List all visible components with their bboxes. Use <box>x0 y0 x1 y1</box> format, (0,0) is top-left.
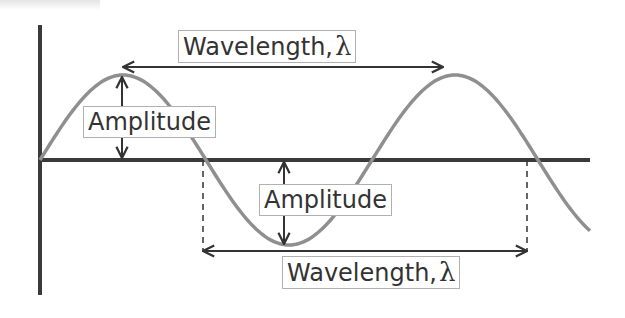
amplitude-label-text: Amplitude <box>264 186 387 214</box>
lambda-symbol: λ <box>335 31 351 61</box>
lambda-symbol: λ <box>439 257 455 287</box>
wavelength-label-text: Wavelength, <box>287 259 437 287</box>
wavelength-label-top: Wavelength,λ <box>178 30 356 63</box>
amplitude-label-text: Amplitude <box>88 108 211 136</box>
wavelength-label-bottom: Wavelength,λ <box>282 256 460 289</box>
wavelength-label-text: Wavelength, <box>183 33 333 61</box>
amplitude-label-left: Amplitude <box>83 106 216 138</box>
amplitude-label-mid: Amplitude <box>259 184 392 216</box>
